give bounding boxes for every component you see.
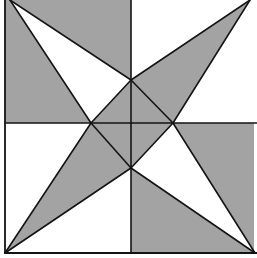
- pinwheel-diagram: [0, 0, 257, 258]
- diagram-canvas: [0, 0, 257, 258]
